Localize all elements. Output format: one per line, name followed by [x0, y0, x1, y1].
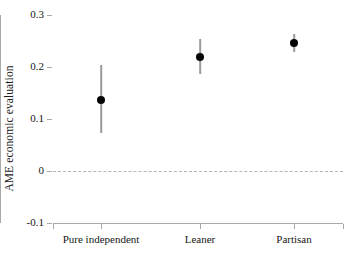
- y-axis-line: [0, 15, 1, 223]
- chart-figure: AME economic evaluation 0.30.20.10-0.1 P…: [0, 0, 355, 257]
- zero-reference-line: [53, 171, 343, 172]
- data-point: [196, 53, 204, 61]
- data-point: [97, 96, 105, 104]
- x-tick-mark: [294, 224, 295, 229]
- y-tick-mark: [47, 223, 52, 224]
- x-tick-mark: [101, 224, 102, 229]
- x-tick-label: Partisan: [234, 233, 354, 245]
- y-tick-label: 0.2: [4, 61, 44, 72]
- y-tick-label: 0.1: [4, 113, 44, 124]
- x-axis-end-cap: [343, 224, 344, 229]
- y-tick-mark: [47, 67, 52, 68]
- x-axis-end-cap: [53, 224, 54, 229]
- x-axis-line: [53, 223, 343, 224]
- y-tick-mark: [47, 119, 52, 120]
- y-tick-label: -0.1: [4, 217, 44, 228]
- y-tick-mark: [47, 171, 52, 172]
- y-tick-label: 0.3: [4, 9, 44, 20]
- y-tick-label: 0: [4, 165, 44, 176]
- data-point: [290, 39, 298, 47]
- y-tick-mark: [47, 15, 52, 16]
- x-tick-mark: [200, 224, 201, 229]
